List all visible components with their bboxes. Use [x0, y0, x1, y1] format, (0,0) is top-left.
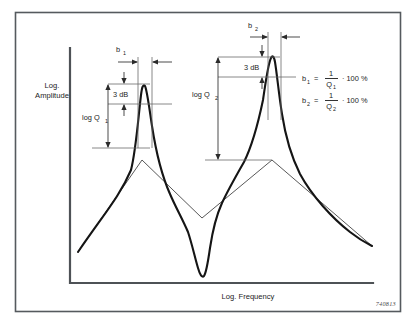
figure-container: Log. Amplitude Log. Frequency b 1 3 dB l… [0, 0, 416, 324]
y-axis-label-line2: Amplitude [35, 91, 69, 100]
figure-border [16, 13, 401, 312]
log-q2-label: log Q [192, 90, 210, 99]
formula-b1-equals: = [314, 74, 318, 83]
formula-b1-numerator: 1 [329, 69, 333, 78]
formula-b1-lhs: b [302, 74, 306, 83]
b2-label-subscript: 2 [255, 26, 258, 32]
formula-b2-denominator-subscript: 2 [333, 106, 336, 112]
three-db-left-label: 3 dB [113, 90, 128, 99]
y-axis-label-line1: Log. [45, 81, 60, 90]
three-db-left-upper-arrow [121, 78, 126, 84]
formula-b1-lhs-subscript: 1 [307, 79, 310, 85]
log-q2-arrow-top [215, 57, 220, 63]
b1-arrowhead-left [132, 59, 138, 64]
log-q2-subscript: 2 [215, 95, 218, 101]
log-q2-arrow-bottom [215, 154, 220, 160]
b2-arrowhead-right [281, 34, 287, 39]
three-db-right-lower-arrow [259, 77, 264, 83]
formula-b2: b 2 = 1 Q 2 · 100 % [302, 91, 368, 112]
log-q1-label: log Q [82, 113, 100, 122]
figure-id-code: 740813 [376, 300, 396, 307]
three-db-left-lower-arrow [121, 104, 126, 110]
b1-arrowhead-right [152, 59, 158, 64]
formula-b2-denominator: Q [326, 102, 332, 111]
log-q1-subscript: 1 [105, 118, 108, 124]
formula-b2-lhs-subscript: 2 [307, 101, 310, 107]
asymptote-lines [78, 160, 372, 252]
formula-b2-equals: = [314, 96, 318, 105]
x-axis-label: Log. Frequency [222, 292, 275, 301]
formula-b1: b 1 = 1 Q 1 · 100 % [302, 69, 368, 90]
b1-label: b [116, 45, 120, 54]
formula-b2-tail: · 100 % [342, 96, 368, 105]
formula-b2-lhs: b [302, 96, 306, 105]
b2-label: b [248, 21, 252, 30]
formula-b2-numerator: 1 [329, 91, 333, 100]
formula-b1-denominator-subscript: 1 [333, 84, 336, 90]
log-q1-arrow-bottom [105, 142, 110, 148]
b2-arrowhead-left [262, 34, 268, 39]
formula-b1-tail: · 100 % [342, 74, 368, 83]
three-db-right-upper-arrow [259, 51, 264, 57]
b1-label-subscript: 1 [123, 50, 126, 56]
three-db-right-label: 3 dB [244, 63, 259, 72]
formula-b1-denominator: Q [326, 80, 332, 89]
log-q1-arrow-top [105, 84, 110, 90]
response-curve-diagram: Log. Amplitude Log. Frequency b 1 3 dB l… [0, 0, 416, 324]
